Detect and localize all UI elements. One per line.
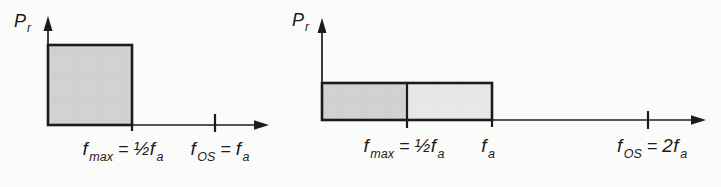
fmax-base: f: [83, 138, 89, 159]
fa-sub: a: [488, 147, 495, 161]
left-x-axis-arrow-icon: [254, 120, 269, 130]
left-y-axis-label: Pr: [14, 12, 31, 30]
right-y-label-sub: r: [305, 20, 309, 34]
fos-value: 2f: [662, 135, 679, 156]
right-fa-label: fa: [481, 136, 495, 155]
fmax-base: f: [364, 135, 370, 156]
right-y-axis-label: Pr: [292, 11, 309, 29]
left-y-axis-arrow-icon: [44, 16, 53, 31]
fmax-sub: max: [89, 150, 113, 164]
fmax-sub: max: [370, 147, 394, 161]
left-fmax-label: fmax=½fa: [83, 139, 164, 158]
fmax-equals: =: [118, 139, 129, 159]
right-fmax-label: fmax=½fa: [364, 136, 445, 155]
right-y-label-base: P: [292, 10, 304, 30]
left-fos-label: fOS=fa: [190, 139, 249, 158]
fa-base: f: [481, 135, 487, 156]
fos-equals: =: [647, 136, 658, 156]
right-x-axis-arrow-icon: [691, 115, 706, 125]
fos-equals: =: [220, 139, 231, 159]
fos-value-sub: a: [243, 150, 250, 164]
right-noise-rect-outband-texture: [407, 83, 492, 120]
fos-sub: OS: [624, 147, 642, 161]
left-noise-rect-texture: [48, 45, 132, 125]
right-y-axis-arrow-icon: [318, 18, 327, 33]
oversampling-noise-diagram: Pr fmax=½fa fOS=fa Pr fmax=½fa fa fOS=2f…: [0, 0, 721, 187]
fmax-value: ½f: [133, 138, 155, 159]
left-plot: [44, 16, 270, 132]
fmax-value-sub: a: [157, 150, 164, 164]
fos-base: f: [617, 135, 623, 156]
right-fos-label: fOS=2fa: [617, 136, 687, 155]
fos-base: f: [190, 138, 196, 159]
fmax-value-sub: a: [438, 147, 445, 161]
fos-value: f: [236, 138, 242, 159]
right-noise-rect-inband-texture: [322, 83, 407, 120]
left-y-label-base: P: [14, 11, 26, 31]
right-plot: [318, 18, 707, 129]
left-y-label-sub: r: [27, 21, 31, 35]
fmax-equals: =: [399, 136, 410, 156]
fmax-value: ½f: [414, 135, 436, 156]
fos-sub: OS: [197, 150, 215, 164]
fos-value-sub: a: [680, 147, 687, 161]
